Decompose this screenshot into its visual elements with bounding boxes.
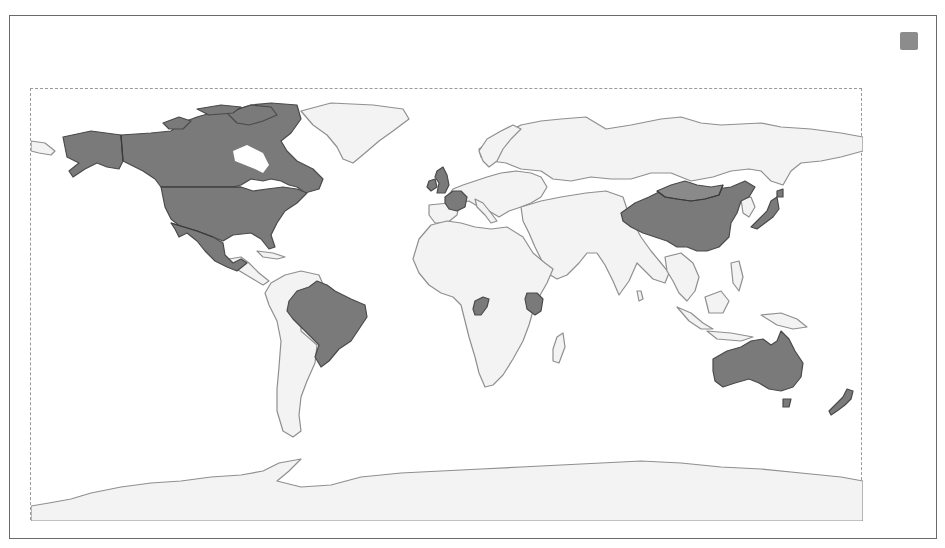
country-canada[interactable] [121,103,323,193]
country-new-zealand[interactable] [829,389,853,415]
world-map [30,88,862,520]
country-australia-tasmania[interactable] [783,399,791,407]
region-sumatra-java[interactable] [707,331,753,341]
country-japan[interactable] [751,197,779,229]
country-united-kingdom[interactable] [435,167,449,193]
world-map-svg [31,89,863,521]
region-southeast-asia[interactable] [665,253,699,301]
country-japan-hokkaido[interactable] [777,189,783,197]
country-usa-alaska[interactable] [63,131,123,177]
region-caribbean[interactable] [257,251,285,259]
country-france[interactable] [445,191,467,211]
country-madagascar[interactable] [553,333,565,363]
country-papua-new-guinea[interactable] [761,313,807,329]
region-central-america[interactable] [229,257,269,285]
country-sri-lanka[interactable] [637,291,643,301]
country-ireland[interactable] [427,179,437,191]
country-greenland[interactable] [301,103,409,163]
legend-swatch[interactable] [900,32,918,50]
region-philippines[interactable] [731,261,743,291]
region-chukotka-west[interactable] [31,141,55,155]
region-borneo[interactable] [705,291,729,313]
country-usa[interactable] [161,187,307,249]
region-indonesia[interactable] [677,307,713,329]
region-antarctica[interactable] [31,459,863,521]
